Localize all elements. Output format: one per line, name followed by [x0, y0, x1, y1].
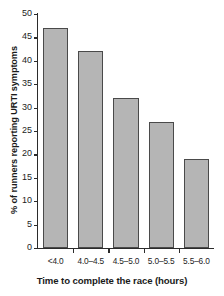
bar	[78, 51, 103, 248]
x-tick-label: 5.5–6.0	[179, 256, 214, 267]
x-tick-mark	[73, 249, 74, 253]
x-tick-mark	[179, 249, 180, 253]
bar	[184, 159, 209, 248]
y-tick-label: 5	[27, 218, 32, 231]
x-tick-mark	[108, 249, 109, 253]
y-tick-label: 10	[22, 194, 32, 207]
y-axis-title: % of runners reporting URTI symptoms	[7, 15, 21, 245]
y-tick-label: 50	[22, 7, 32, 20]
y-tick-label: 30	[22, 101, 32, 114]
y-axis-tick: 45	[0, 37, 38, 38]
y-tick-label: 45	[22, 30, 32, 43]
bar	[113, 98, 138, 248]
bar-chart-figure: % of runners reporting URTI symptoms 051…	[0, 0, 224, 296]
y-axis-tick: 50	[0, 14, 38, 15]
bar	[43, 28, 68, 248]
x-axis-line	[37, 248, 214, 249]
x-tick-mark	[144, 249, 145, 253]
y-tick-label: 35	[22, 77, 32, 90]
y-axis-tick: 25	[0, 131, 38, 132]
y-axis-tick: 30	[0, 108, 38, 109]
bar	[149, 122, 174, 248]
x-tick-label: <4.0	[38, 256, 73, 267]
y-axis-tick: 10	[0, 201, 38, 202]
x-axis-title: Time to complete the race (hours)	[0, 275, 224, 286]
x-tick-label: 5.0–5.5	[144, 256, 179, 267]
y-tick-label: 0	[27, 241, 32, 254]
y-axis-tick: 5	[0, 225, 38, 226]
y-tick-label: 25	[22, 124, 32, 137]
y-axis-tick: 20	[0, 154, 38, 155]
x-tick-label: 4.5–5.0	[108, 256, 143, 267]
y-axis-tick: 15	[0, 178, 38, 179]
x-tick-label: 4.0–4.5	[73, 256, 108, 267]
plot-area	[38, 14, 214, 248]
y-axis-tick: 35	[0, 84, 38, 85]
y-axis-tick: 40	[0, 61, 38, 62]
y-tick-label: 40	[22, 54, 32, 67]
y-tick-label: 20	[22, 147, 32, 160]
y-tick-mark	[34, 248, 38, 249]
y-tick-label: 15	[22, 171, 32, 184]
y-axis-tick: 0	[0, 248, 38, 249]
